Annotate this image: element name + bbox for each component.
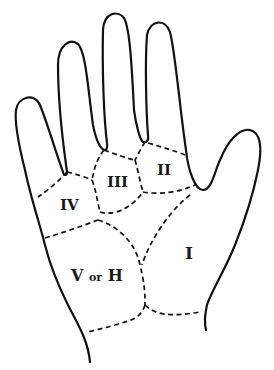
region-label-or: or [89,271,102,284]
boundary-i-left [142,195,190,265]
boundary-iv-top [67,172,92,180]
boundary-iii-top-right [104,150,135,160]
region-label-ii: II [157,163,171,178]
region-label-v: V [71,266,83,285]
region-label-i: I [185,245,193,262]
boundary-v-bottom [88,305,145,332]
boundary-v-top [45,220,98,238]
boundary-i-bottom [145,305,200,315]
boundary-ii-bottom [143,185,195,193]
region-label-v-or-h: V or H [71,268,123,284]
boundary-iii-bottom [100,192,143,213]
boundary-iv-iii [92,180,100,212]
hand-diagram [0,0,274,370]
boundary-iii-ii [135,160,143,192]
region-label-iii: III [107,175,128,190]
hand-outline [16,14,261,362]
boundary-ii-top-right [148,143,185,155]
boundary-v-right [98,220,145,305]
boundary-ii-top [135,142,145,160]
region-label-iv: IV [60,198,79,213]
region-label-h: H [108,266,123,285]
boundary-iv-left [38,172,67,197]
boundary-iii-top [92,150,104,180]
